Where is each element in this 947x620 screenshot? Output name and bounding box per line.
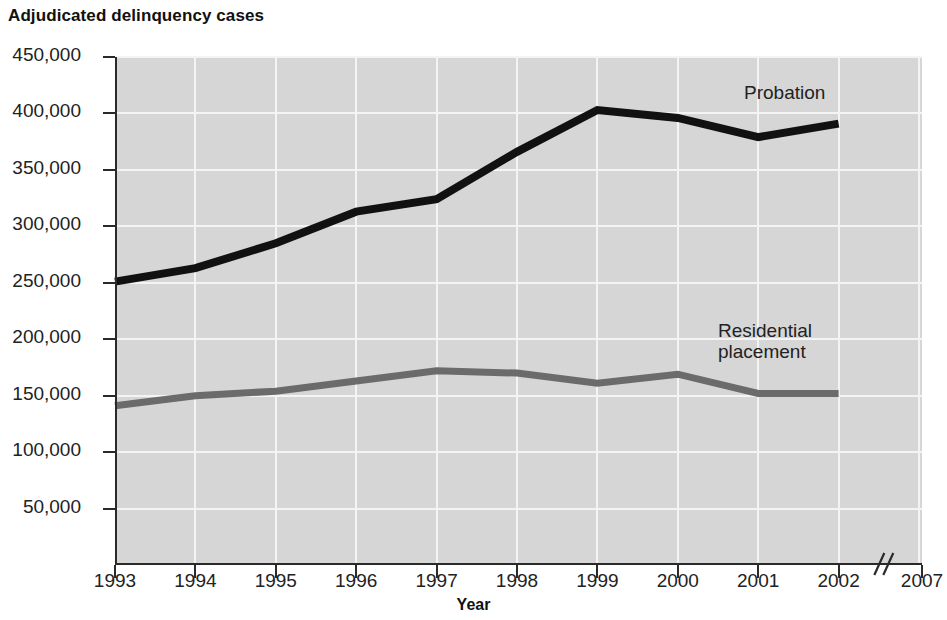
series-label-residential: Residential placement — [718, 320, 812, 363]
series-line-probation — [115, 110, 839, 282]
axis-break-icon — [873, 553, 893, 575]
chart-container: Adjudicated delinquency cases 450,000400… — [0, 0, 947, 620]
axis-break-mask — [873, 564, 893, 568]
x-axis-title: Year — [0, 596, 947, 614]
series-label-probation: Probation — [744, 82, 825, 103]
series-line-residential — [115, 371, 839, 406]
